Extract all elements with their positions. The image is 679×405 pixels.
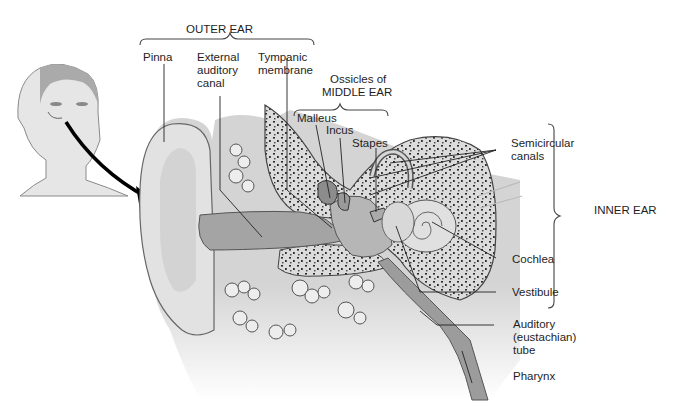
group-label-inner-ear: INNER EAR (594, 204, 657, 217)
head-inset (18, 64, 156, 210)
label-semicircular-canals: Semicircular canals (511, 137, 574, 163)
label-stapes: Stapes (352, 137, 388, 150)
group-label-middle-ear-line2: MIDDLE EAR (322, 86, 392, 99)
label-tympanic-membrane: Tympanic membrane (258, 51, 313, 77)
label-pinna: Pinna (143, 51, 172, 64)
label-incus: Incus (326, 124, 354, 137)
label-pharynx: Pharynx (513, 370, 555, 383)
label-auditory-eustachian-tube: Auditory (eustachian) tube (513, 318, 576, 357)
ear-anatomy-illustration (0, 0, 679, 405)
ear-body (140, 105, 522, 400)
group-label-middle-ear-line1: Ossicles of (330, 73, 386, 86)
label-vestibule: Vestibule (512, 286, 559, 299)
label-cochlea: Cochlea (512, 253, 554, 266)
group-label-outer-ear: OUTER EAR (186, 23, 253, 36)
label-external-auditory-canal: External auditory canal (197, 51, 239, 90)
